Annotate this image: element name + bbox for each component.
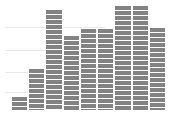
bar (11, 96, 28, 110)
bar (149, 27, 166, 110)
bar (28, 68, 45, 110)
plot-area (11, 0, 166, 110)
bar (63, 35, 80, 110)
bar (132, 5, 149, 110)
bar-chart (0, 0, 174, 119)
bar (80, 28, 97, 110)
bar (45, 9, 62, 110)
bar (114, 5, 131, 110)
bar (97, 28, 114, 110)
